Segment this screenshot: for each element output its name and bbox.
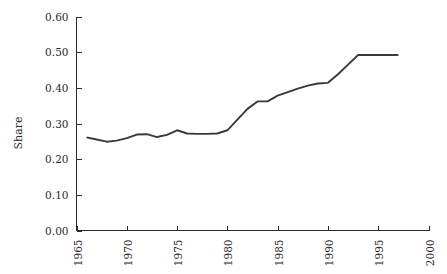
y-axis-title: Share (12, 117, 25, 150)
line-chart: 0.000.100.200.300.400.500.60 19651970197… (0, 0, 447, 274)
x-tick-label: 1970 (122, 240, 134, 267)
y-tick-label: 0.30 (45, 118, 68, 130)
x-tick-label: 1995 (373, 240, 385, 267)
axis-lines (77, 17, 429, 231)
x-axis-ticks (78, 226, 430, 231)
y-axis-ticks (77, 18, 82, 232)
y-tick-label: 0.20 (45, 153, 68, 165)
y-tick-label: 0.40 (45, 82, 68, 94)
x-tick-label: 1990 (323, 240, 335, 267)
y-tick-label: 0.10 (45, 189, 68, 201)
x-tick-label: 1965 (72, 240, 84, 267)
y-tick-label: 0.00 (45, 225, 68, 237)
axis-frame (77, 17, 429, 231)
chart-figure: 0.000.100.200.300.400.500.60 19651970197… (0, 0, 447, 274)
x-tick-label: 1985 (273, 240, 285, 267)
y-axis-tick-labels: 0.000.100.200.300.400.500.60 (45, 11, 68, 237)
x-axis-tick-labels: 19651970197519801985199019952000 (72, 240, 436, 267)
x-tick-label: 1980 (222, 240, 234, 267)
x-tick-label: 1975 (172, 240, 184, 267)
y-tick-label: 0.50 (45, 46, 68, 58)
data-line-share (87, 55, 399, 142)
y-tick-label: 0.60 (45, 11, 68, 23)
x-tick-label: 2000 (424, 240, 436, 267)
data-series-group (87, 55, 399, 142)
